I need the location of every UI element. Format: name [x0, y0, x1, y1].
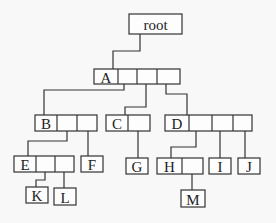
node-label: L [60, 190, 69, 206]
edge-D-H [171, 131, 196, 158]
node-label: D [172, 116, 183, 132]
node-label: E [20, 157, 29, 173]
node-f: F [81, 156, 103, 173]
node-d: D [165, 115, 252, 132]
node-label: A [101, 70, 112, 86]
edge-root-A [113, 34, 140, 69]
node-label: B [41, 116, 51, 132]
node-b: B [35, 115, 97, 132]
node-g: G [126, 158, 148, 175]
node-j: J [238, 158, 260, 175]
node-label: C [112, 116, 122, 132]
node-label: M [186, 192, 199, 208]
node-label: G [132, 159, 143, 175]
edge-A-B [44, 84, 124, 115]
node-a: A [94, 69, 180, 86]
edge-B-E [28, 131, 67, 156]
node-label: H [164, 159, 175, 175]
tree-canvas: rootABCDEFGHIJKLM [0, 0, 276, 223]
node-e: E [14, 156, 74, 173]
node-label: root [143, 17, 168, 33]
edge-A-D [166, 84, 187, 115]
node-label: J [246, 159, 252, 175]
node-k: K [26, 187, 48, 204]
node-label: K [32, 188, 43, 204]
node-c: C [106, 115, 150, 132]
node-label: F [88, 157, 96, 173]
edge-A-C [125, 84, 146, 115]
node-root: root [129, 14, 182, 34]
node-i: I [209, 158, 231, 175]
node-label: I [218, 159, 223, 175]
edge-E-K [36, 172, 45, 187]
tree-diagram: rootABCDEFGHIJKLM [0, 0, 276, 223]
node-l: L [54, 188, 76, 206]
node-h: H [157, 158, 203, 175]
node-m: M [181, 190, 205, 208]
